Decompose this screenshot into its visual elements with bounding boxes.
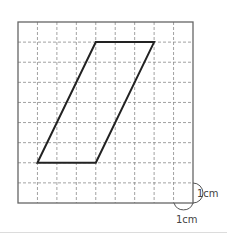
grid-diagram: 1cm 1cm — [0, 0, 227, 237]
horizontal-unit-label: 1cm — [176, 214, 198, 225]
grid-border — [18, 22, 193, 203]
vertical-unit-label: 1cm — [197, 188, 219, 199]
separator-line — [0, 232, 227, 233]
grid-lines — [18, 22, 193, 203]
horizontal-unit-brace — [174, 203, 193, 210]
